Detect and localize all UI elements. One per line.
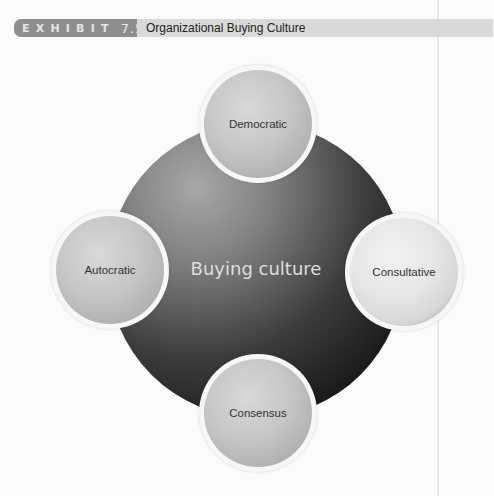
node-democratic-label: Democratic [204, 70, 312, 178]
hub-label: Buying culture [156, 258, 356, 279]
node-consultative-label: Consultative [350, 218, 458, 326]
buying-culture-diagram: Buying culture Democratic Autocratic Con… [0, 0, 494, 496]
node-consensus-label: Consensus [204, 359, 312, 467]
node-autocratic: Autocratic [51, 211, 169, 329]
node-consultative: Consultative [345, 213, 463, 331]
node-democratic: Democratic [199, 65, 317, 183]
node-consensus: Consensus [199, 354, 317, 472]
node-autocratic-label: Autocratic [56, 216, 164, 324]
